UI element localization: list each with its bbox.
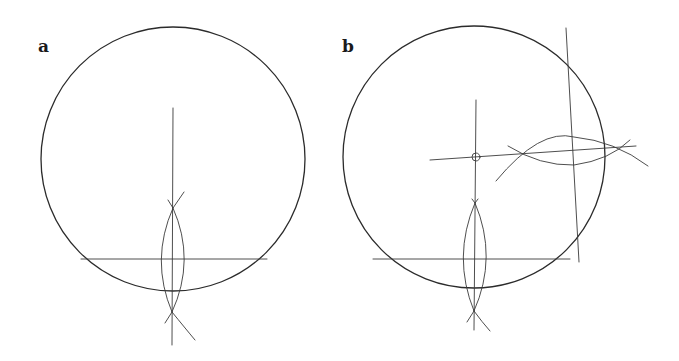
perpendicular-bisector-1-b bbox=[474, 100, 476, 330]
arc-tail-bottom-right-a bbox=[172, 312, 195, 340]
lens-arc-right-a bbox=[172, 208, 184, 312]
panel-a bbox=[41, 27, 305, 345]
chord-2-b bbox=[566, 28, 579, 262]
construction-diagram bbox=[0, 0, 679, 361]
arc-tail-top-a bbox=[168, 192, 184, 208]
arc-tail-bottom-right-b bbox=[474, 311, 490, 331]
arc-tail-bottom-left-b bbox=[467, 311, 474, 322]
lens-2-arc-lower-b bbox=[508, 140, 630, 165]
arc-tail-bottom-left-a bbox=[165, 312, 172, 323]
panel-b bbox=[343, 26, 648, 331]
lens-1-arc-left-b bbox=[463, 203, 475, 311]
lens-1-arc-right-b bbox=[474, 203, 486, 311]
lens-arc-left-a bbox=[161, 208, 173, 312]
